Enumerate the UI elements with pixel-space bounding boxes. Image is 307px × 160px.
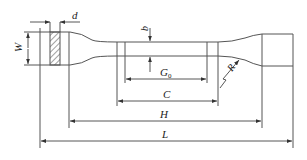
label-l: L	[161, 128, 168, 140]
label-w: W	[12, 42, 24, 52]
label-g0: G0	[160, 66, 172, 80]
dimension-d: d	[30, 9, 80, 22]
dimension-g0: G0	[126, 66, 206, 80]
dimension-w: W	[12, 32, 40, 65]
dimension-b: b	[139, 26, 150, 72]
cross-section-hatch	[50, 22, 60, 65]
label-d: d	[72, 9, 78, 21]
label-h: H	[159, 108, 169, 120]
specimen-diagram: d W b G0 R C H	[0, 0, 307, 160]
label-c: C	[163, 88, 171, 100]
dimension-r: R	[220, 60, 239, 88]
label-r: R	[224, 62, 237, 74]
dimension-l: L	[41, 128, 292, 141]
dimension-h: H	[70, 108, 261, 121]
dimension-c: C	[118, 88, 217, 101]
label-b: b	[139, 26, 150, 31]
